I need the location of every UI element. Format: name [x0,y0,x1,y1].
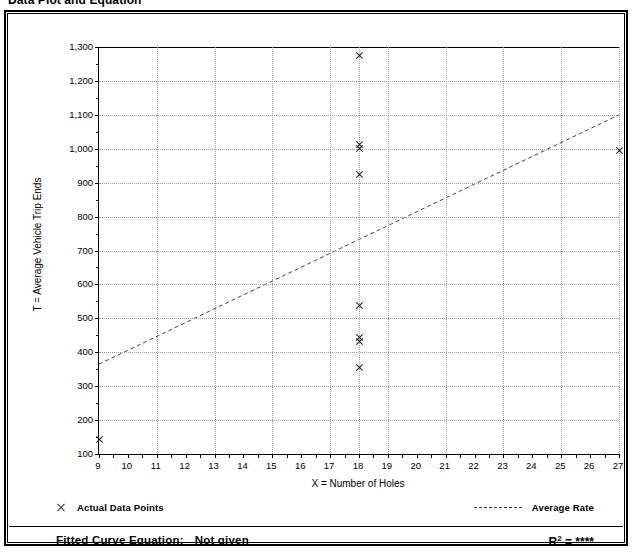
x-axis-minor-tick [460,455,461,458]
x-axis-tick-label: 16 [285,460,315,471]
x-axis-tick-label: 18 [343,460,373,471]
x-axis-tick-label: 10 [112,460,142,471]
x-axis-title: X = Number of Holes [98,478,618,489]
y-axis-tick-label: 1,300 [48,41,93,52]
x-axis-tick-label: 15 [256,460,286,471]
r-squared-value: **** [575,535,594,549]
r-squared-equals: = [565,535,572,549]
gridline-horizontal [99,115,619,116]
x-axis-tick [128,454,129,458]
x-axis-tick-label: 19 [372,460,402,471]
page-title: Data Plot and Equation [8,0,142,7]
r-squared-exponent: 2 [557,534,561,543]
x-axis-minor-tick [547,455,548,458]
x-axis-tick [619,454,620,458]
x-axis-minor-tick [113,455,114,458]
x-axis-minor-tick [489,455,490,458]
y-axis-minor-tick [96,64,99,65]
y-axis-minor-tick [96,166,99,167]
x-axis-tick [446,454,447,458]
x-axis-minor-tick [431,455,432,458]
y-axis-tick-label: 400 [48,346,93,357]
x-axis-minor-tick [605,455,606,458]
x-axis-minor-tick [402,455,403,458]
y-axis-tick-label: 700 [48,245,93,256]
x-axis-tick-label: 24 [516,460,546,471]
y-axis-tick [95,251,99,252]
y-axis-tick [95,115,99,116]
y-axis-tick-label: 1,100 [48,109,93,120]
y-axis-tick-label: 300 [48,380,93,391]
x-axis-minor-tick [287,455,288,458]
gridline-vertical [619,47,620,454]
r-squared-statistic: R2 = **** [548,534,594,549]
x-axis-tick [99,454,100,458]
legend-row-equation: Fitted Curve Equation: Not given R2 = **… [8,530,632,553]
legend-entry-data-points: Actual Data Points [56,502,164,513]
chart-area: T = Average Vehicle Trip Ends X = Number… [8,14,632,494]
gridline-horizontal [99,149,619,150]
x-axis-tick [503,454,504,458]
x-axis-minor-tick [576,455,577,458]
x-axis-tick-label: 22 [459,460,489,471]
x-axis-tick [417,454,418,458]
y-axis-tick-label: 600 [48,278,93,289]
gridline-horizontal [99,318,619,319]
x-axis-tick-label: 12 [170,460,200,471]
fitted-curve-equation: Fitted Curve Equation: Not given [56,534,249,546]
x-axis-tick [272,454,273,458]
gridline-horizontal [99,183,619,184]
x-axis-minor-tick [373,455,374,458]
legend-label-data-points: Actual Data Points [77,502,164,513]
x-axis-tick-label: 11 [141,460,171,471]
legend-label-average-rate: Average Rate [532,502,594,513]
x-axis-tick-label: 17 [314,460,344,471]
y-axis-tick [95,81,99,82]
y-axis-minor-tick [96,234,99,235]
y-axis-tick [95,284,99,285]
y-axis-tick [95,420,99,421]
x-axis-tick-label: 14 [227,460,257,471]
x-axis-minor-tick [518,455,519,458]
x-axis-minor-tick [229,455,230,458]
dashed-line-icon [474,507,522,508]
x-axis-minor-tick [200,455,201,458]
x-axis-tick-label: 9 [83,460,113,471]
x-axis-tick [561,454,562,458]
y-axis-tick-label: 100 [48,448,93,459]
y-axis-tick [95,454,99,455]
gridline-horizontal [99,352,619,353]
x-axis-minor-tick [345,455,346,458]
equation-value: Not given [195,534,249,546]
y-axis-minor-tick [96,437,99,438]
gridline-horizontal [99,420,619,421]
x-axis-tick [215,454,216,458]
legend-entry-average-rate: Average Rate [474,502,594,513]
y-axis-minor-tick [96,132,99,133]
y-axis-tick-label: 800 [48,211,93,222]
x-axis-tick [301,454,302,458]
gridline-horizontal [99,386,619,387]
y-axis-minor-tick [96,301,99,302]
y-axis-minor-tick [96,403,99,404]
x-axis-minor-tick [171,455,172,458]
x-axis-tick [243,454,244,458]
x-axis-tick [475,454,476,458]
y-axis-tick-label: 1,000 [48,143,93,154]
y-axis-tick-label: 1,200 [48,75,93,86]
gridline-horizontal [99,284,619,285]
x-axis-tick-label: 13 [199,460,229,471]
x-axis-tick [186,454,187,458]
x-axis-tick-label: 27 [603,460,633,471]
y-axis-tick [95,386,99,387]
y-axis-minor-tick [96,200,99,201]
y-axis-title: T = Average Vehicle Trip Ends [32,150,43,340]
legend-row-symbols: Actual Data Points Average Rate [8,498,632,528]
y-axis-tick [95,47,99,48]
y-axis-minor-tick [96,335,99,336]
x-axis-tick [532,454,533,458]
y-axis-minor-tick [96,369,99,370]
x-axis-tick-label: 23 [487,460,517,471]
gridline-horizontal [99,251,619,252]
x-axis-minor-tick [258,455,259,458]
